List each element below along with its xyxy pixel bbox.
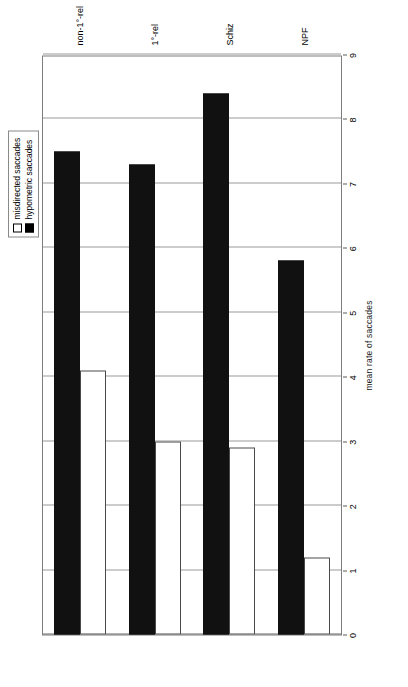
legend-label-misdirected: misdirected saccades [12,137,23,219]
value-axis-title: mean rate of saccades [364,55,374,635]
legend-label-hypometric: hypometric saccades [24,139,35,219]
axis-tick-label: 1 [347,568,359,573]
bar-hypometric [203,93,229,634]
axis-tick-label: 8 [347,117,359,122]
plot-frame [42,55,342,635]
bar-misdirected [80,370,106,634]
axis-tick-label: 5 [347,310,359,315]
plot-area [42,55,342,635]
bar-group [43,56,118,634]
bar-misdirected [304,557,330,634]
bar-group [192,56,267,634]
category-axis: non-1°-rel1°-relSchizNPF [42,0,342,51]
gridline [43,53,341,54]
filled-square-icon [25,223,34,232]
axis-tick-label: 2 [347,504,359,509]
axis-tick-label: 7 [347,181,359,186]
bar-hypometric [54,151,80,634]
open-square-icon [13,223,22,232]
bar-hypometric [129,164,155,634]
category-label: Schiz [224,23,236,45]
bar-group [118,56,193,634]
axis-tick-label: 6 [347,246,359,251]
axis-tick-label: 9 [347,52,359,57]
figure-stage: misdirected saccades hypometric saccades… [0,0,408,687]
chart-legend: misdirected saccades hypometric saccades [8,130,39,237]
axis-tick-label: 3 [347,439,359,444]
category-label: NPF [299,27,311,45]
legend-item-hypometric: hypometric saccades [24,137,35,232]
value-axis: 0123456789 [343,55,363,635]
category-label: 1°-rel [149,23,161,45]
axis-tick-label: 4 [347,375,359,380]
bar-misdirected [229,447,255,634]
category-label: non-1°-rel [74,5,86,45]
bar-chart-figure: misdirected saccades hypometric saccades… [0,0,408,687]
axis-tick-label: 0 [347,632,359,637]
legend-item-misdirected: misdirected saccades [12,137,23,232]
bar-hypometric [278,260,304,634]
bar-misdirected [155,441,181,634]
bar-groups [43,56,341,634]
bar-group [267,56,342,634]
